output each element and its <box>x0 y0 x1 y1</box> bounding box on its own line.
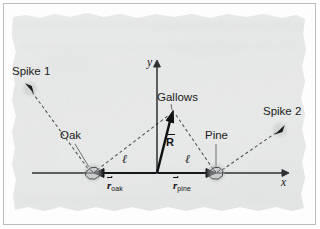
r-oak-vector-label: roak <box>107 176 123 192</box>
pine-tree-marker <box>208 165 225 182</box>
r-pine-symbol: r <box>173 179 177 191</box>
r-oak-subscript: oak <box>111 185 123 192</box>
figure-canvas: Spike 1 Spike 2 Oak Pine Gallows y x ℓ ℓ… <box>0 0 320 229</box>
r-oak-symbol: r <box>107 179 111 191</box>
pine-label: Pine <box>205 130 228 142</box>
distance-label-ell-left: ℓ <box>122 153 127 165</box>
r-pine-subscript: pine <box>177 185 191 192</box>
y-axis-label: y <box>147 57 152 69</box>
spike2-marker <box>273 123 287 137</box>
x-axis-label: x <box>281 177 286 189</box>
R-vector-symbol: R <box>166 136 174 148</box>
distance-label-ell-right: ℓ <box>185 153 190 165</box>
r-pine-vector-label: rpine <box>173 176 191 192</box>
spike2-label: Spike 2 <box>263 106 301 118</box>
spike1-marker <box>23 82 37 96</box>
gallows-label: Gallows <box>157 92 198 104</box>
R-vector-label: R <box>166 133 174 149</box>
spike1-label: Spike 1 <box>12 66 50 78</box>
oak-tree-marker <box>85 165 102 182</box>
oak-label: Oak <box>60 130 81 142</box>
